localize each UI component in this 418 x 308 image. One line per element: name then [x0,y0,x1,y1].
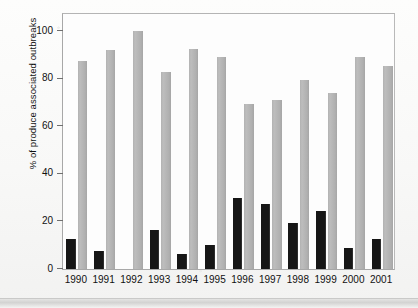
bar-gray-1992 [133,31,143,269]
bar-gray-1991 [106,50,116,269]
bar-gray-1997 [272,100,282,269]
bar-black-2001 [372,239,382,269]
y-tick-label: 0 [47,263,53,274]
y-tick-label: 100 [36,25,53,36]
bar-gray-1999 [328,93,338,269]
bar-gray-1994 [189,49,199,269]
bar-gray-1990 [78,61,88,269]
bar-black-1995 [205,245,215,269]
bar-black-1997 [261,204,271,269]
y-tick-label: 60 [42,120,53,131]
scan-page-edge [0,298,418,308]
bar-black-2000 [344,248,354,269]
bar-gray-2001 [383,66,393,269]
bar-black-1990 [66,239,76,269]
bar-black-1999 [316,211,326,269]
bar-black-1998 [288,223,298,269]
bars-layer [63,14,394,269]
bar-black-1993 [150,230,160,269]
bar-gray-1996 [244,104,254,269]
y-tick-label: 20 [42,215,53,226]
x-label-2001: 2001 [365,274,397,285]
bar-black-1996 [233,198,243,269]
bar-gray-2000 [355,57,365,269]
chart-page: % of produce associated outbreaks 020406… [0,0,418,308]
bar-black-1991 [94,251,104,269]
bar-gray-1995 [217,57,227,269]
plot-area: 020406080100 [62,13,395,270]
bar-black-1994 [177,254,187,269]
bar-gray-1993 [161,72,171,270]
y-tick-label: 80 [42,72,53,83]
y-tick-label: 40 [42,167,53,178]
bar-gray-1998 [300,80,310,269]
